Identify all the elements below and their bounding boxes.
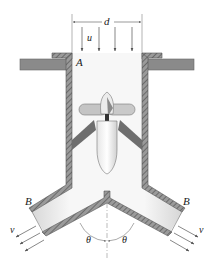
outlet-arrows-right: v	[170, 224, 204, 251]
label-B-right: B	[183, 195, 190, 207]
left-plate	[20, 59, 68, 70]
label-d: d	[104, 15, 110, 27]
right-pipe-wall	[142, 53, 185, 212]
label-B-left: B	[25, 195, 32, 207]
outlet-arrows-left: v	[10, 224, 44, 251]
left-pipe-wall	[29, 53, 72, 212]
label-theta-left: θ	[86, 234, 91, 245]
y-pipe-diagram: d u A B B v v θ θ	[0, 0, 214, 261]
label-A: A	[75, 56, 83, 68]
streamlined-body	[97, 121, 117, 174]
label-u: u	[87, 32, 92, 43]
label-v-right: v	[199, 224, 204, 235]
right-plate	[146, 59, 194, 70]
label-theta-right: θ	[122, 234, 127, 245]
inlet-velocity-arrows: u	[82, 27, 132, 51]
diameter-dimension: d	[72, 14, 142, 53]
label-v-left: v	[10, 224, 15, 235]
